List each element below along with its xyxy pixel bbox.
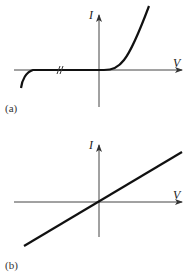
diagram-canvas	[0, 0, 191, 277]
caption-b: (b)	[5, 260, 18, 271]
x-axis-label-b: V	[173, 189, 180, 201]
caption-a: (a)	[5, 103, 17, 114]
x-axis-label-a: V	[173, 57, 180, 69]
y-axis-label-b: I	[89, 139, 93, 151]
panel-b	[14, 145, 182, 246]
iv-curve-a	[21, 6, 149, 88]
panel-a	[14, 6, 182, 107]
iv-line-b	[24, 152, 182, 246]
y-axis-label-a: I	[89, 9, 93, 21]
